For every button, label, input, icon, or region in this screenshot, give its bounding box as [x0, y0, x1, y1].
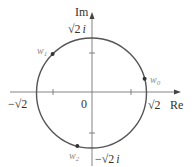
real-axis-label: Re [170, 98, 183, 112]
point-w0 [143, 77, 147, 81]
pos-real-intercept-label: √2 [148, 98, 161, 112]
complex-plane-diagram: Im Re 0 √2i √2 −√2 −√2i w0 w1 w2 [0, 0, 195, 167]
label-w0: w0 [150, 74, 161, 87]
point-w2 [75, 144, 79, 148]
label-w2: w2 [69, 150, 80, 163]
origin-label: 0 [81, 97, 87, 111]
real-axis-arrow-icon [174, 90, 181, 95]
neg-imag-intercept-label: −√2i [95, 152, 120, 166]
neg-real-intercept-label: −√2 [8, 97, 27, 111]
point-w1 [51, 52, 55, 56]
pos-imag-intercept-label: √2i [68, 22, 86, 36]
imag-axis-arrow-icon [90, 12, 95, 19]
imag-axis-label: Im [75, 5, 89, 19]
label-w1: w1 [37, 45, 47, 58]
